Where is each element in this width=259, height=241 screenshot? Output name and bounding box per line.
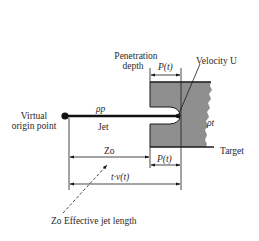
effective-length-pointer [63, 165, 107, 213]
zo-label: Zo [104, 146, 115, 156]
tv-label: t·v(t) [111, 172, 129, 182]
penetration-depth-label-line1: Penetration [110, 51, 162, 61]
jet-label: Jet [98, 122, 109, 132]
penetration-depth-label-line2: depth [104, 61, 162, 71]
penetration-depth-label: Penetration depth [110, 51, 162, 71]
virtual-origin-dot [61, 112, 68, 119]
target-label: Target [220, 146, 244, 156]
effective-jet-length-label: Zo Effective jet length [51, 216, 137, 226]
target-density-label: ρt [207, 118, 214, 128]
penetration-depth-top-value: P(t) [158, 62, 173, 72]
jet-penetration-diagram: Virtual origin point ρp Jet Penetration … [0, 0, 259, 241]
virtual-origin-label-line2: origin point [6, 121, 62, 131]
jet-density-label: ρp [96, 104, 105, 114]
penetration-depth-bottom-value: P(t) [157, 154, 172, 164]
velocity-label: Velocity U [196, 56, 237, 66]
virtual-origin-label: Virtual origin point [6, 111, 62, 131]
virtual-origin-label-line1: Virtual [6, 111, 62, 121]
